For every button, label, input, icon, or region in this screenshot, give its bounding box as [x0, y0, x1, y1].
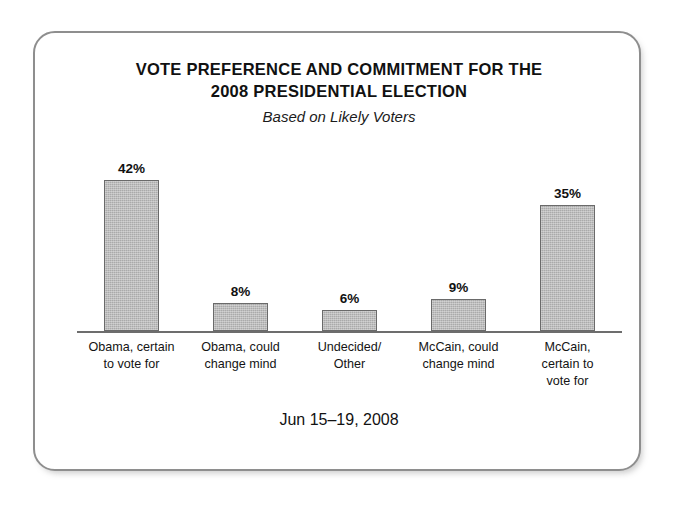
bar-obama-certain	[104, 180, 159, 331]
bar-slot-mccain-certain: 35%	[513, 158, 622, 331]
bar-slot-obama-certain: 42%	[77, 158, 186, 331]
bar-slot-mccain-could-change: 9%	[404, 158, 513, 331]
x-tick-label-obama-could-change: Obama, could change mind	[186, 339, 295, 390]
x-tick-label-obama-certain: Obama, certain to vote for	[77, 339, 186, 390]
bar-value-label: 6%	[340, 291, 360, 306]
bar-slot-obama-could-change: 8%	[186, 158, 295, 331]
x-axis-line	[77, 331, 622, 333]
bar-mccain-could-change	[431, 299, 486, 331]
bar-obama-could-change	[213, 303, 268, 332]
bar-series: 42% 8% 6% 9% 35%	[77, 158, 622, 331]
x-axis-tick-labels: Obama, certain to vote for Obama, could …	[77, 339, 622, 390]
bar-undecided-other	[322, 310, 377, 332]
chart-frame: VOTE PREFERENCE AND COMMITMENT FOR THE 2…	[33, 31, 641, 471]
bar-mccain-certain	[540, 205, 595, 331]
bar-value-label: 35%	[554, 186, 581, 201]
plot-area: 42% 8% 6% 9% 35%	[77, 158, 622, 333]
bar-slot-undecided-other: 6%	[295, 158, 404, 331]
chart-subtitle: Based on Likely Voters	[35, 107, 643, 127]
survey-date-footer: Jun 15–19, 2008	[35, 411, 643, 429]
x-tick-label-mccain-certain: McCain, certain to vote for	[513, 339, 622, 390]
x-tick-label-mccain-could-change: McCain, could change mind	[404, 339, 513, 390]
bar-value-label: 42%	[118, 161, 145, 176]
title-block: VOTE PREFERENCE AND COMMITMENT FOR THE 2…	[35, 58, 643, 127]
x-tick-label-undecided-other: Undecided/ Other	[295, 339, 404, 390]
chart-page: VOTE PREFERENCE AND COMMITMENT FOR THE 2…	[0, 0, 677, 516]
bar-value-label: 8%	[231, 284, 251, 299]
page-title: VOTE PREFERENCE AND COMMITMENT FOR THE 2…	[35, 58, 643, 102]
bar-value-label: 9%	[449, 280, 469, 295]
